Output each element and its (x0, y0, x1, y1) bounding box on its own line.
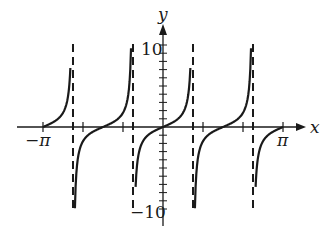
pi-label: π (276, 130, 289, 150)
function-plot: x y −π π 10 −10 (0, 0, 324, 226)
curve-branch (43, 68, 70, 127)
x-axis-arrow-icon (296, 123, 306, 131)
neg-pi-label: −π (25, 130, 51, 150)
y-max-label: 10 (141, 39, 163, 59)
y-axis-label: y (157, 4, 168, 24)
y-min-label: −10 (130, 202, 166, 222)
y-axis-arrow-icon (159, 24, 167, 35)
x-axis-label: x (310, 117, 320, 137)
